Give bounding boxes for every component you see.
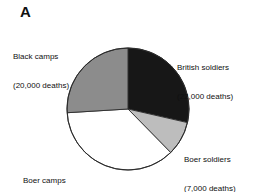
figure-panel-a: A Black camps (20,000 deaths) British so… xyxy=(0,0,262,192)
slice-label-black-camps: Black camps (20,000 deaths) xyxy=(13,33,69,110)
slice-label-boer-camps: Boer camps (28,000 deaths) xyxy=(23,157,79,192)
slice-label-british-soldiers-value: (22,000 deaths) xyxy=(177,92,233,102)
slice-label-british-soldiers: British soldiers (22,000 deaths) xyxy=(177,44,233,121)
slice-label-boer-camps-name: Boer camps xyxy=(23,176,79,186)
slice-label-british-soldiers-name: British soldiers xyxy=(177,63,233,73)
slice-label-boer-soldiers: Boer soldiers (7,000 deaths) xyxy=(184,136,236,192)
slice-label-boer-soldiers-name: Boer soldiers xyxy=(184,155,236,165)
slice-label-boer-soldiers-value: (7,000 deaths) xyxy=(184,184,236,192)
slice-label-black-camps-name: Black camps xyxy=(13,52,69,62)
pie-slices xyxy=(67,48,189,170)
slice-label-black-camps-value: (20,000 deaths) xyxy=(13,81,69,91)
pie-slice-black-camps xyxy=(67,48,128,113)
